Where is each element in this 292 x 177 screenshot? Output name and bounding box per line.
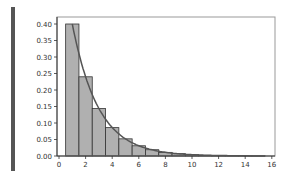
y-tick-label: 0.35 [36,37,52,45]
x-tick-label: 4 [110,161,115,169]
x-tick-label: 2 [83,161,87,169]
x-tick-label: 14 [241,161,250,169]
histogram-chart: 0.000.050.100.150.200.250.300.350.400246… [0,0,292,177]
x-tick-label: 16 [267,161,276,169]
y-tick-label: 0.05 [36,136,52,144]
y-tick-label: 0.30 [36,54,52,62]
y-tick-label: 0.10 [36,120,52,128]
x-tick-label: 0 [57,161,61,169]
y-tick-label: 0.25 [36,70,52,78]
x-tick-label: 10 [188,161,197,169]
y-tick-label: 0.40 [36,21,52,29]
x-tick-label: 8 [163,161,167,169]
y-tick-label: 0.00 [36,153,52,161]
y-tick-label: 0.20 [36,87,52,95]
y-tick-label: 0.15 [36,103,52,111]
x-tick-label: 12 [214,161,223,169]
bars [66,24,266,156]
x-tick-label: 6 [137,161,142,169]
